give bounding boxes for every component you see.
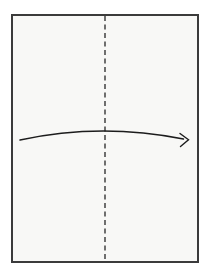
origami-diagram [0, 0, 208, 269]
origami-diagram-canvas [0, 0, 208, 269]
